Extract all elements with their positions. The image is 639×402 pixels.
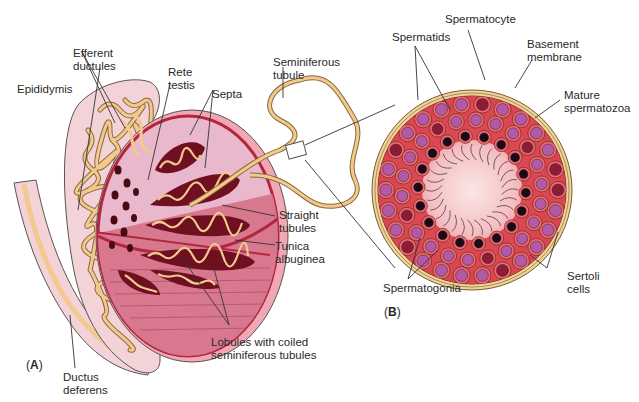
panel-b-drawing <box>372 90 572 290</box>
label-ductus-deferens: Ductus deferens <box>63 371 108 397</box>
label-tunica-albuginea: Tunica albuginea <box>275 240 325 266</box>
label-basement-membrane: Basement membrane <box>527 38 582 64</box>
label-septa: Septa <box>212 88 242 101</box>
label-spermatids: Spermatids <box>392 31 450 44</box>
diagram-canvas: Efferent ductules Epididymis Rete testis… <box>0 0 639 402</box>
panel-label-b: (B) <box>384 305 401 319</box>
label-mature-spermatozoa: Mature spermatozoa <box>564 89 630 115</box>
label-spermatogonia: Spermatogonia <box>383 282 461 295</box>
label-epididymis: Epididymis <box>17 83 73 96</box>
label-spermatocyte: Spermatocyte <box>445 13 516 26</box>
label-seminiferous-tubule: Seminiferous tubule <box>273 56 340 82</box>
label-straight-tubules: Straight tubules <box>279 209 319 235</box>
label-sertoli-cells: Sertoli cells <box>567 270 600 296</box>
panel-label-a: (A) <box>26 358 43 372</box>
label-efferent-ductules: Efferent ductules <box>73 47 116 73</box>
label-lobules: Lobules with coiled seminiferous tubules <box>211 336 316 362</box>
label-rete-testis: Rete testis <box>168 66 195 92</box>
